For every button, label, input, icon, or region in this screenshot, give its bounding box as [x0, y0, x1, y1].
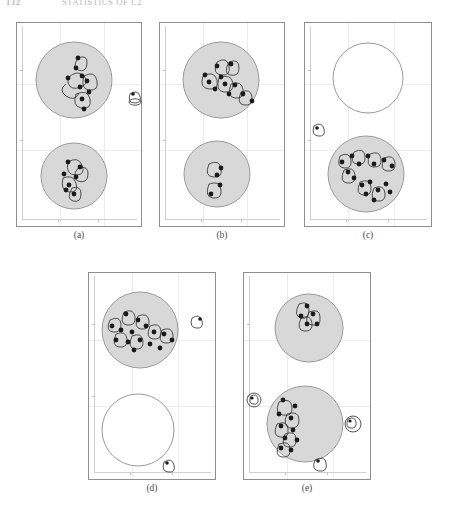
cluster-circle-bottom	[328, 136, 404, 212]
cluster-circle-top	[275, 294, 343, 362]
panel-d-plot	[88, 272, 216, 480]
panel-d-caption: (d)	[88, 483, 216, 493]
panel-c-plot	[304, 22, 432, 227]
panel-a: (a)	[16, 22, 142, 227]
panel-e-plot	[243, 272, 371, 480]
panel-c-caption: (c)	[304, 230, 432, 240]
cluster-circle-bottom	[267, 386, 343, 462]
cluster-circle-top	[36, 42, 112, 118]
outside-marker-right-middle	[129, 92, 141, 105]
panel-b-caption: (b)	[159, 230, 285, 240]
outside-marker-right-middle	[345, 416, 361, 432]
panel-a-plot	[16, 22, 142, 227]
cluster-circle-top-empty	[333, 43, 403, 113]
cluster-circle-top	[183, 42, 259, 118]
panel-e-caption: (e)	[243, 483, 371, 493]
panel-b-plot	[159, 22, 285, 227]
cluster-circle-top	[102, 292, 178, 368]
panel-d: (d)	[88, 272, 216, 480]
cluster-circle-bottom-empty	[102, 394, 174, 466]
outside-marker-bottom-right	[163, 460, 174, 472]
panel-b: (b)	[159, 22, 285, 227]
figure-page: 132 STATISTICS OF L2	[0, 0, 475, 513]
outside-marker-left-middle	[313, 124, 324, 136]
panel-c: (c)	[304, 22, 432, 227]
outside-marker-left-middle	[247, 393, 261, 407]
panel-a-caption: (a)	[16, 230, 142, 240]
outside-marker-right-upper	[191, 316, 202, 328]
figure-panels: (a)	[0, 0, 475, 513]
outside-marker-bottom-center	[314, 458, 327, 471]
panel-e: (e)	[243, 272, 371, 480]
